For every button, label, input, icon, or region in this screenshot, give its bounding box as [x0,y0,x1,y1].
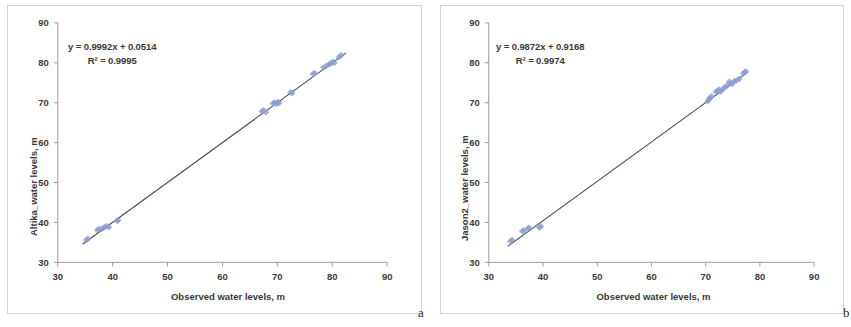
data-markers [83,52,345,244]
equation-text-a: y = 0.9992x + 0.0514 [68,40,156,54]
y-tick-label: 70 [38,97,49,108]
r-squared-text-b: R² = 0.9974 [496,54,584,68]
x-tick-label: 90 [382,271,393,282]
trendline [82,53,346,244]
r-squared-text-a: R² = 0.9995 [68,54,156,68]
equation-text-b: y = 0.9872x + 0.9168 [496,40,584,54]
y-tick-label: 80 [38,57,49,68]
x-tick-label: 60 [217,271,228,282]
x-tick-label: 80 [327,271,338,282]
x-tick-label: 80 [755,271,766,282]
figure-root: 3040506070809030405060708090 y = 0.9992x… [0,0,851,327]
x-tick-label: 30 [484,271,495,282]
y-tick-label: 60 [38,137,49,148]
x-tick-label: 70 [272,271,283,282]
data-markers [507,68,749,244]
x-tick-label: 90 [809,271,820,282]
panel-caption-a: a [418,305,424,321]
regression-annotation-a: y = 0.9992x + 0.0514 R² = 0.9995 [68,40,156,69]
x-tick-label: 40 [107,271,118,282]
y-tick-label: 30 [469,257,480,268]
y-tick-label: 40 [469,217,480,228]
x-tick-label: 60 [646,271,657,282]
chart-panel-b: 3040506070809030405060708090 y = 0.9872x… [440,5,844,314]
regression-annotation-b: y = 0.9872x + 0.9168 R² = 0.9974 [496,40,584,69]
y-tick-label: 90 [38,17,49,28]
y-tick-label: 80 [469,57,480,68]
x-tick-label: 50 [592,271,603,282]
x-tick-label: 70 [700,271,711,282]
y-tick-label: 40 [38,217,49,228]
panel-caption-b: b [843,305,851,321]
x-tick-label: 50 [162,271,173,282]
y-axis-title-a: Altika_water levels, m [28,137,39,236]
y-tick-label: 70 [469,97,480,108]
y-tick-label: 50 [469,177,480,188]
y-tick-label: 50 [38,177,49,188]
y-tick-label: 30 [38,257,49,268]
x-axis-title-a: Observed water levels, m [58,291,398,302]
y-tick-label: 60 [469,137,480,148]
x-tick-label: 40 [538,271,549,282]
chart-panel-a: 3040506070809030405060708090 y = 0.9992x… [7,5,422,314]
x-axis-title-b: Observed water levels, m [486,291,821,302]
x-tick-label: 30 [53,271,64,282]
y-axis-title-b: Jason2_water levels, m [459,135,470,241]
y-tick-label: 90 [469,17,480,28]
